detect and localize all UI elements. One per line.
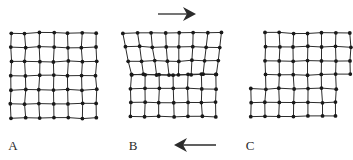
lattice-atom — [129, 87, 133, 91]
lattice-bond — [293, 34, 294, 47]
lattice-atom — [249, 101, 253, 105]
lattice-atom — [277, 86, 281, 90]
lattice-atom — [199, 72, 203, 76]
lattice-bond — [336, 74, 337, 89]
lattice-bond — [81, 47, 96, 48]
lattice-bond — [54, 33, 67, 34]
lattice-atom — [306, 100, 310, 104]
lattice-atom — [292, 87, 296, 91]
lattice-bond — [279, 75, 280, 88]
lattice-bond — [323, 102, 336, 103]
lattice-atom — [52, 116, 56, 120]
lattice-atom — [177, 31, 181, 35]
lattice-bond — [293, 61, 307, 62]
lattice-atom — [23, 32, 27, 36]
lattice-atom — [143, 86, 147, 90]
lattice-bond — [265, 61, 266, 75]
lattice-atom — [10, 59, 14, 63]
lattice-bond — [25, 104, 39, 105]
lattice-atom — [126, 59, 130, 63]
lattice-atom — [249, 115, 253, 119]
lattice-bond — [155, 61, 168, 62]
lattice-atom — [157, 86, 161, 90]
lattice-atom — [320, 45, 324, 49]
lattice-atom — [94, 45, 98, 49]
lattice-atom — [52, 88, 56, 92]
lattice-atom — [263, 59, 267, 63]
lattice-atom — [306, 32, 310, 36]
lattice-atom — [9, 88, 13, 92]
panel-label-b: B — [129, 138, 138, 153]
lattice-atom — [94, 116, 98, 120]
figure-background — [0, 0, 353, 160]
lattice-atom — [52, 60, 56, 64]
lattice-bond — [336, 46, 337, 61]
lattice-bond — [68, 103, 83, 104]
lattice-atom — [191, 31, 195, 35]
lattice-atom — [157, 73, 161, 77]
lattice-atom — [143, 73, 147, 77]
lattice-bond — [11, 118, 26, 119]
lattice-bond — [54, 75, 68, 76]
lattice-atom — [52, 31, 56, 35]
lattice-atom — [320, 59, 324, 63]
lattice-atom — [348, 59, 352, 63]
lattice-bond — [279, 88, 280, 102]
lattice-atom — [200, 114, 204, 118]
lattice-atom — [278, 45, 282, 49]
lattice-atom — [191, 45, 195, 49]
lattice-bond — [308, 75, 309, 88]
lattice-bond — [174, 116, 188, 117]
lattice-atom — [264, 87, 268, 91]
lattice-atom — [203, 59, 207, 63]
lattice-atom — [79, 46, 83, 50]
lattice-atom — [214, 87, 218, 91]
lattice-atom — [306, 44, 310, 48]
lattice-atom — [66, 74, 70, 78]
lattice-atom — [216, 59, 220, 63]
lattice-atom — [206, 31, 210, 35]
lattice-bond — [11, 47, 26, 48]
lattice-atom — [157, 101, 161, 105]
lattice-atom — [186, 86, 190, 90]
lattice-bond — [279, 102, 280, 116]
lattice-atom — [124, 45, 128, 49]
lattice-atom — [263, 114, 267, 118]
lattice-atom — [66, 46, 70, 50]
lattice-atom — [37, 88, 41, 92]
lattice-bond — [11, 33, 12, 47]
lattice-atom — [80, 31, 84, 35]
lattice-atom — [334, 87, 338, 91]
lattice-atom — [214, 115, 218, 119]
lattice-atom — [166, 59, 170, 63]
lattice-atom — [306, 73, 310, 77]
lattice-atom — [66, 31, 70, 35]
lattice-atom — [37, 102, 41, 106]
lattice-atom — [23, 102, 27, 106]
lattice-atom — [177, 73, 181, 77]
lattice-bond — [293, 116, 307, 117]
lattice-atom — [348, 72, 352, 76]
lattice-atom — [171, 73, 175, 77]
lattice-atom — [306, 114, 310, 118]
lattice-atom — [143, 100, 147, 104]
lattice-bond — [145, 102, 159, 103]
lattice-bond — [159, 88, 160, 102]
lattice-atom — [264, 45, 268, 49]
lattice-bond — [96, 89, 97, 103]
lattice-bond — [265, 47, 266, 61]
lattice-atom — [277, 30, 281, 34]
lattice-atom — [277, 73, 281, 77]
lattice-bond — [265, 32, 266, 46]
lattice-atom — [291, 73, 295, 77]
lattice-atom — [140, 59, 144, 63]
lattice-atom — [172, 101, 176, 105]
lattice-atom — [264, 73, 268, 77]
lattice-atom — [130, 73, 134, 77]
lattice-atom — [334, 114, 338, 118]
lattice-atom — [52, 102, 56, 106]
lattice-atom — [186, 72, 190, 76]
lattice-atom — [143, 115, 147, 119]
lattice-bond — [10, 90, 11, 103]
lattice-atom — [37, 45, 41, 49]
